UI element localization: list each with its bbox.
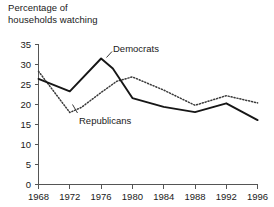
x-tick-label-1996: 1996 (247, 191, 268, 202)
series-line-democrats (39, 59, 258, 121)
x-axis-ticks (39, 185, 258, 190)
y-tick-label-5: 5 (26, 159, 31, 170)
series-label-democrats: Democrats (113, 43, 159, 54)
y-tick-label-0: 0 (26, 179, 31, 190)
chart-figure: Percentage ofhouseholds watching 35 30 2… (0, 0, 274, 207)
series-line-republicans (39, 71, 258, 112)
series-label-republicans: Republicans (79, 115, 132, 126)
y-tick-label-35: 35 (20, 39, 31, 50)
democrats-leader-line (107, 52, 113, 58)
x-tick-label-1984: 1984 (153, 191, 174, 202)
x-tick-label-1972: 1972 (59, 191, 80, 202)
y-tick-label-25: 25 (20, 79, 31, 90)
y-tick-label-30: 30 (20, 59, 31, 70)
y-axis-ticks (35, 45, 39, 185)
y-tick-label-10: 10 (20, 139, 31, 150)
x-tick-label-1968: 1968 (28, 191, 49, 202)
y-axis-tick-labels: 35 30 25 20 15 10 5 0 (20, 39, 31, 190)
y-tick-label-15: 15 (20, 119, 31, 130)
chart-plot-area: 35 30 25 20 15 10 5 0 1968 1972 1976 198… (0, 0, 274, 207)
x-tick-label-1976: 1976 (91, 191, 112, 202)
x-tick-label-1992: 1992 (216, 191, 237, 202)
x-axis-tick-labels: 1968 1972 1976 1980 1984 1988 1992 1996 (28, 191, 268, 202)
x-tick-label-1988: 1988 (184, 191, 205, 202)
x-tick-label-1980: 1980 (122, 191, 143, 202)
y-tick-label-20: 20 (20, 99, 31, 110)
